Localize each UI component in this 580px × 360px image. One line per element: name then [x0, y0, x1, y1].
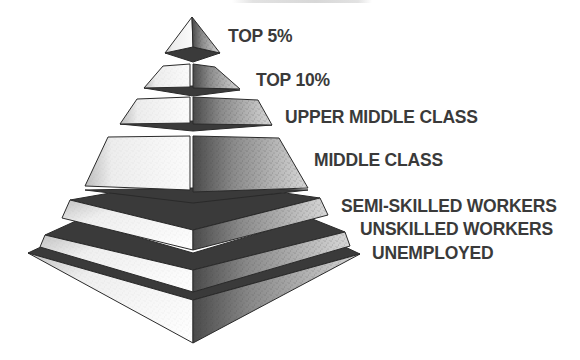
label-unemployed: UNEMPLOYED — [372, 245, 493, 263]
pyramid — [28, 17, 360, 343]
layer-upper-middle-class — [120, 97, 272, 125]
layer-middle-class — [85, 136, 308, 192]
layer-top-10 — [144, 64, 240, 89]
label-semi-skilled-workers: SEMI-SKILLED WORKERS — [341, 198, 557, 216]
label-upper-middle-class: UPPER MIDDLE CLASS — [285, 109, 478, 127]
label-middle-class: MIDDLE CLASS — [314, 152, 443, 170]
class-pyramid-diagram — [0, 0, 580, 360]
label-top-10: TOP 10% — [256, 72, 330, 90]
label-top-5: TOP 5% — [228, 28, 292, 46]
layer-top-5 — [165, 17, 220, 62]
label-unskilled-workers: UNSKILLED WORKERS — [360, 221, 553, 239]
